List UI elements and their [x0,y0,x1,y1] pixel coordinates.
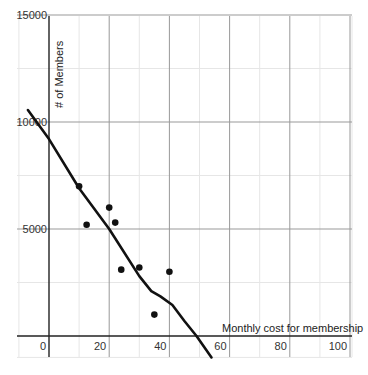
x-tick-label: 60 [214,340,226,352]
scatter-chart: 020406080100 50001000015000 Monthly cost… [0,0,368,375]
trend-curve-path [28,110,212,357]
y-axis-title: # of Members [53,40,65,108]
x-tick-label: 0 [40,340,46,352]
y-axis-tick-labels: 50001000015000 [16,9,47,235]
data-point [166,269,173,276]
trend-curve [28,110,212,357]
major-gridlines [17,15,352,357]
data-point [83,221,90,228]
minor-gridlines [17,16,352,357]
data-point [136,264,143,271]
x-axis-tick-labels: 020406080100 [40,340,347,352]
data-point [118,266,125,273]
x-tick-label: 40 [154,340,166,352]
axes [17,16,352,357]
x-tick-label: 100 [329,340,347,352]
x-axis-title: Monthly cost for membership [222,322,363,334]
data-point [151,311,158,318]
y-tick-label: 10000 [16,116,47,128]
data-point [76,183,83,190]
data-point [106,204,113,211]
x-tick-label: 80 [275,340,287,352]
x-tick-label: 20 [94,340,106,352]
data-point [112,219,119,226]
y-tick-label: 5000 [23,223,47,235]
y-tick-label: 15000 [16,9,47,21]
